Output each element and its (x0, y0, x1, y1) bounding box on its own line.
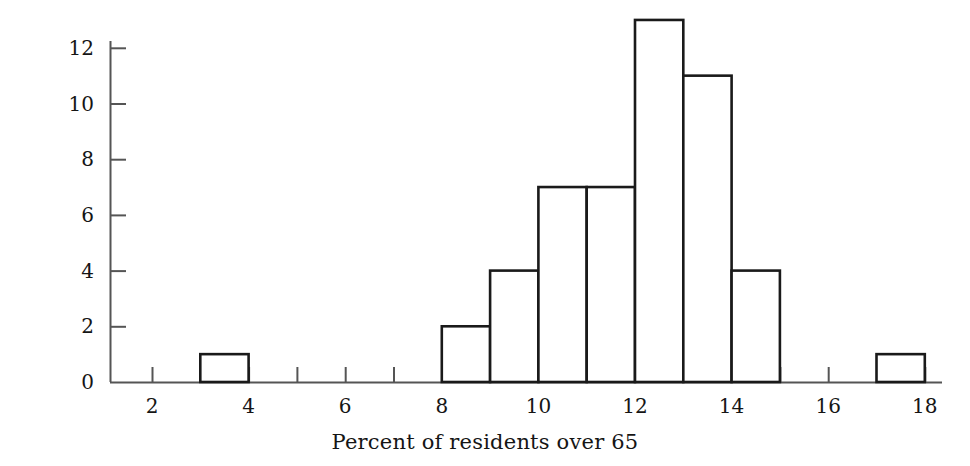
x-tick-label: 18 (903, 396, 947, 416)
x-axis-label: Percent of residents over 65 (0, 430, 970, 454)
y-tick-label: 4 (58, 261, 94, 281)
y-tick-label: 6 (58, 205, 94, 225)
histogram-bar (200, 354, 248, 382)
y-tick-label: 8 (58, 149, 94, 169)
x-tick-label: 14 (710, 396, 754, 416)
x-tick-label: 10 (516, 396, 560, 416)
x-tick-label: 8 (420, 396, 464, 416)
histogram-bar (635, 20, 683, 382)
histogram-bar (442, 326, 490, 382)
y-tick-label: 10 (58, 94, 94, 114)
histogram-bar (490, 271, 538, 382)
histogram-bars (200, 20, 925, 382)
x-tick-label: 2 (130, 396, 174, 416)
histogram-bar (877, 354, 925, 382)
histogram-bar (732, 271, 780, 382)
y-tick-label: 0 (58, 372, 94, 392)
histogram-bar (538, 187, 586, 382)
x-tick-label: 16 (806, 396, 850, 416)
histogram-bar (683, 76, 731, 382)
histogram-bar (587, 187, 635, 382)
x-tick-label: 6 (323, 396, 367, 416)
x-tick-label: 12 (613, 396, 657, 416)
histogram-figure: 024681012 24681012141618 Percent of resi… (0, 0, 970, 466)
y-tick-label: 2 (58, 316, 94, 336)
y-tick-label: 12 (58, 38, 94, 58)
y-tick-marks (111, 48, 126, 327)
x-tick-label: 4 (227, 396, 271, 416)
